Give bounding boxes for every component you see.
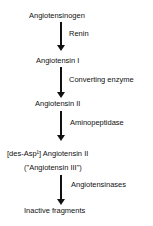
- edge-label-aminopeptidase: Aminopeptidase: [70, 119, 124, 127]
- arrow-down-icon: [60, 67, 62, 93]
- node-angiotensin-2: Angiotensin II: [35, 100, 80, 108]
- node-des-asp-angiotensin-2: [des-Asp¹] Angiotensin II: [7, 150, 88, 158]
- node-angiotensin-3-alias: ("Angiotensin III"): [24, 164, 82, 172]
- arrow-down-icon: [60, 175, 62, 200]
- edge-label-renin: Renin: [69, 30, 89, 38]
- edge-label-converting-enzyme: Converting enzyme: [69, 76, 134, 84]
- node-angiotensin-1: Angiotensin I: [36, 57, 79, 65]
- node-inactive-fragments: Inactive fragments: [24, 207, 85, 215]
- node-angiotensinogen: Angiotensinogen: [29, 12, 85, 20]
- arrow-down-icon: [60, 22, 62, 46]
- edge-label-angiotensinases: Angiotensinases: [71, 181, 126, 189]
- arrow-down-icon: [60, 111, 62, 136]
